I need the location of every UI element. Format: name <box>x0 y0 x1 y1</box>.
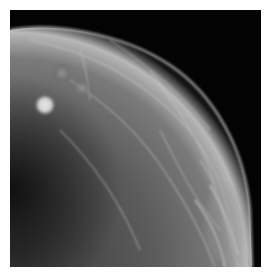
dense-mass <box>34 94 56 116</box>
mammogram-image <box>10 10 261 267</box>
faint-density <box>51 62 73 84</box>
mammogram-render <box>10 10 261 267</box>
